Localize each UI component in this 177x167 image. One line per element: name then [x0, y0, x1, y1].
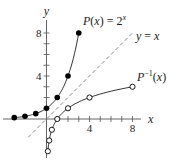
- filled-point: [11, 115, 17, 121]
- x-axis-label: x: [147, 112, 154, 126]
- x-tick-label: 4: [87, 122, 93, 134]
- open-point: [130, 84, 135, 89]
- open-point: [87, 95, 92, 100]
- y-axis-label: y: [43, 4, 50, 18]
- y-tick-label: 4: [36, 70, 42, 82]
- plot-series: [11, 30, 135, 154]
- labels: xyP(x) = 2xy = xP−1(x): [43, 4, 166, 126]
- x-tick-label: 8: [130, 122, 136, 134]
- filled-point: [22, 114, 28, 120]
- function-inverse-chart: 4848 xyP(x) = 2xy = xP−1(x): [0, 0, 177, 167]
- filled-point: [54, 95, 60, 101]
- open-point: [47, 138, 52, 143]
- filled-point: [44, 105, 50, 111]
- axis-ticks: 4848: [36, 27, 136, 134]
- identity-label: y = x: [135, 29, 160, 43]
- filled-point: [65, 73, 71, 79]
- exponential-label: P(x) = 2x: [82, 13, 126, 28]
- filled-point: [33, 111, 39, 117]
- filled-point: [76, 30, 82, 36]
- y-tick-label: 8: [36, 27, 42, 39]
- open-point: [55, 116, 60, 121]
- open-point: [49, 127, 54, 132]
- open-point: [45, 149, 50, 154]
- inverse-label: P−1(x): [136, 69, 166, 84]
- identity-line: [28, 33, 132, 137]
- open-point: [65, 106, 70, 111]
